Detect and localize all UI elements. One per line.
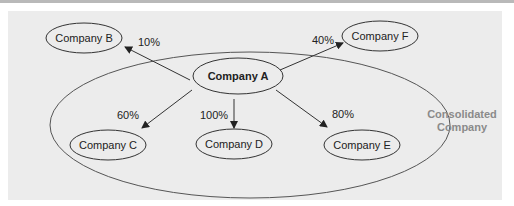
node-company-a: Company A [193, 58, 283, 94]
group-label-line2: Company [437, 121, 488, 133]
arrow-a-to-f [280, 43, 343, 70]
node-company-e: Company E [324, 130, 400, 160]
node-company-c: Company C [70, 130, 146, 160]
ownership-f: 40% [312, 34, 334, 46]
arrow-a-to-c [142, 90, 192, 128]
node-label: Company D [205, 138, 263, 150]
node-company-b: Company B [46, 23, 122, 53]
ownership-d: 100% [200, 109, 228, 121]
group-label-line1: Consolidated [427, 108, 497, 120]
ownership-c: 60% [117, 109, 139, 121]
node-label: Company E [333, 139, 390, 151]
arrow-a-to-e [276, 90, 327, 127]
ownership-b: 10% [138, 36, 160, 48]
node-company-f: Company F [342, 21, 418, 51]
ownership-e: 80% [332, 108, 354, 120]
node-label: Company B [55, 32, 112, 44]
node-label: Company C [79, 139, 137, 151]
node-label: Company F [352, 30, 409, 42]
node-company-d: Company D [196, 129, 272, 159]
node-label: Company A [208, 70, 269, 82]
ownership-diagram: Company A Company B Company F Company C … [0, 0, 514, 206]
arrow-a-to-b [125, 47, 190, 80]
